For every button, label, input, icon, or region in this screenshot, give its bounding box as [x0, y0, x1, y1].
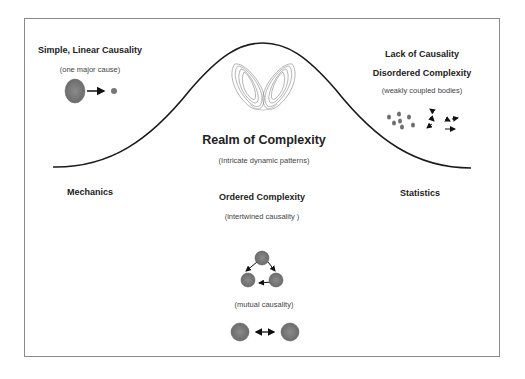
ordered-complexity-subtitle: (intertwined causality )	[225, 212, 300, 221]
linear-causality-icon	[65, 79, 117, 103]
mechanics-label: Mechanics	[67, 187, 113, 197]
realm-of-complexity-subtitle: (Intricate dynamic patterns)	[219, 156, 310, 165]
intertwined-cycle-icon	[241, 251, 283, 287]
linear-causality-title: Simple, Linear Causality	[38, 45, 142, 55]
bell-curve	[53, 43, 471, 168]
ordered-complexity-title: Ordered Complexity	[219, 192, 305, 202]
scattered-arrows-icon	[427, 109, 458, 129]
disordered-dots-icon	[387, 112, 415, 130]
disordered-complexity-title: Disordered Complexity	[373, 68, 472, 78]
lack-of-causality-title: Lack of Causality	[385, 49, 459, 59]
mutual-causality-icon	[231, 323, 299, 341]
mutual-causality-subtitle: (mutual causality)	[235, 300, 294, 309]
disordered-complexity-subtitle: (weakly coupled bodies)	[382, 86, 462, 95]
realm-of-complexity-title: Realm of Complexity	[202, 133, 326, 147]
linear-causality-subtitle: (one major cause)	[60, 65, 120, 74]
lorenz-attractor-icon	[232, 64, 295, 110]
statistics-label: Statistics	[400, 188, 440, 198]
